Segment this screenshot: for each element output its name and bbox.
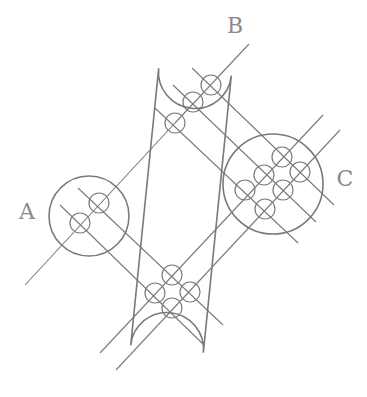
element-node — [145, 283, 165, 303]
label-b: B — [227, 13, 243, 38]
element-node — [180, 282, 200, 302]
connector-lines — [25, 44, 340, 370]
element-node — [162, 265, 182, 285]
element-node — [89, 193, 109, 213]
group-b-capsule — [131, 68, 232, 352]
connector-line — [173, 85, 316, 222]
element-node — [254, 165, 274, 185]
element-node — [272, 147, 292, 167]
label-a: A — [18, 199, 36, 224]
set-diagram: ABC — [0, 0, 367, 397]
diagram-canvas: ABC — [0, 0, 367, 397]
connector-line — [175, 44, 249, 123]
connector-line — [78, 188, 223, 325]
connector-line — [25, 123, 175, 285]
label-c: C — [337, 166, 354, 191]
element-node — [255, 199, 275, 219]
element-node — [70, 213, 90, 233]
element-nodes — [70, 75, 310, 318]
element-node — [162, 298, 182, 318]
group-labels: ABC — [18, 13, 353, 224]
